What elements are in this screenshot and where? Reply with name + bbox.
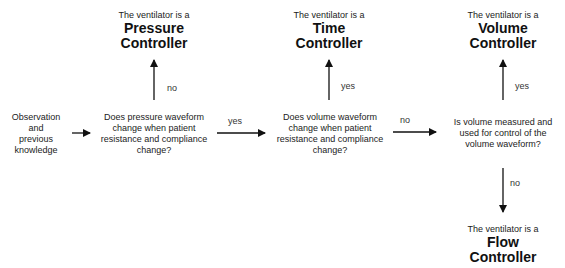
question-line: resistance and compliance — [268, 134, 392, 145]
start-line: knowledge — [4, 145, 68, 156]
start-line: and — [4, 123, 68, 134]
question-line: Does pressure waveform — [92, 112, 216, 123]
outcome-title: Volume — [443, 21, 563, 36]
start-node: Observation and previous knowledge — [4, 112, 68, 156]
question-line: volume waveform? — [441, 139, 565, 150]
edge-label-q3-no: no — [510, 178, 520, 188]
question-line: change? — [92, 145, 216, 156]
outcome-title: Flow — [443, 235, 563, 250]
question-volume-measured: Is volume measured and used for control … — [441, 117, 565, 150]
outcome-title: Time — [269, 21, 389, 36]
question-line: used for control of the — [441, 128, 565, 139]
outcome-title: Controller — [269, 36, 389, 51]
outcome-title: Pressure — [94, 21, 214, 36]
question-line: change? — [268, 145, 392, 156]
question-volume-waveform: Does volume waveform change when patient… — [268, 112, 392, 156]
outcome-title: Controller — [94, 36, 214, 51]
edge-label-q2-yes: yes — [341, 81, 355, 91]
outcome-time-controller: The ventilator is a Time Controller — [269, 10, 389, 51]
outcome-volume-controller: The ventilator is a Volume Controller — [443, 10, 563, 51]
start-line: previous — [4, 134, 68, 145]
edge-label-q2-no: no — [400, 115, 410, 125]
outcome-title: Controller — [443, 250, 563, 265]
question-pressure-waveform: Does pressure waveform change when patie… — [92, 112, 216, 156]
question-line: Is volume measured and — [441, 117, 565, 128]
question-line: Does volume waveform — [268, 112, 392, 123]
question-line: change when patient — [268, 123, 392, 134]
edge-label-q1-yes: yes — [228, 116, 242, 126]
edge-label-q3-yes: yes — [515, 81, 529, 91]
outcome-title: Controller — [443, 36, 563, 51]
outcome-flow-controller: The ventilator is a Flow Controller — [443, 224, 563, 265]
start-line: Observation — [4, 112, 68, 123]
outcome-pressure-controller: The ventilator is a Pressure Controller — [94, 10, 214, 51]
question-line: resistance and compliance — [92, 134, 216, 145]
edge-label-q1-no: no — [167, 83, 177, 93]
question-line: change when patient — [92, 123, 216, 134]
